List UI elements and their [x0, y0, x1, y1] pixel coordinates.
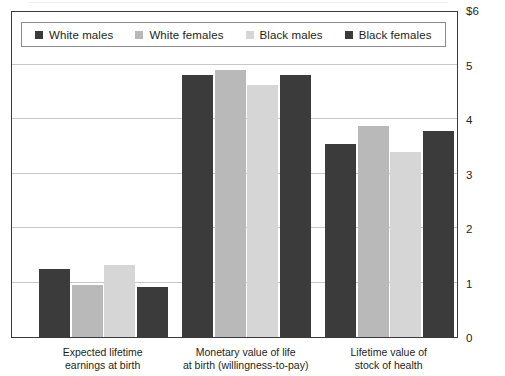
legend-swatch-icon [135, 31, 143, 39]
y-axis-tick-label: 2 [466, 223, 472, 235]
y-axis-tick-label: 4 [466, 114, 472, 126]
legend-item-label: Black males [260, 29, 323, 41]
legend-item[interactable]: White males [35, 29, 113, 41]
bar [137, 287, 168, 337]
y-axis-tick-label: $6 [466, 5, 479, 17]
bar [390, 152, 421, 337]
legend-swatch-icon [345, 31, 353, 39]
chart-figure: White malesWhite femalesBlack malesBlack… [0, 0, 505, 376]
bar [325, 144, 356, 337]
legend-item-label: White females [149, 29, 223, 41]
bar [182, 75, 213, 337]
plot-area [11, 11, 458, 338]
legend-item[interactable]: Black females [345, 29, 432, 41]
bar [280, 75, 311, 337]
bar [423, 131, 454, 337]
legend-item-label: White males [49, 29, 113, 41]
bar [39, 269, 70, 337]
x-axis-group-label: Lifetime value of stock of health [299, 346, 479, 371]
y-axis-tick-label: 0 [466, 332, 472, 344]
legend-item-label: Black females [359, 29, 432, 41]
bars-layer [12, 12, 457, 337]
legend-swatch-icon [246, 31, 254, 39]
bar [247, 85, 278, 337]
bar [104, 265, 135, 337]
bar [72, 285, 103, 337]
y-axis-tick-label: 1 [466, 278, 472, 290]
bar [215, 70, 246, 337]
chart-legend: White malesWhite femalesBlack malesBlack… [21, 22, 446, 47]
y-axis-tick-label: 5 [466, 60, 472, 72]
legend-item[interactable]: Black males [246, 29, 323, 41]
legend-swatch-icon [35, 31, 43, 39]
scan-artifact-line [28, 2, 448, 3]
legend-item[interactable]: White females [135, 29, 223, 41]
bar [358, 126, 389, 337]
y-axis-tick-label: 3 [466, 169, 472, 181]
